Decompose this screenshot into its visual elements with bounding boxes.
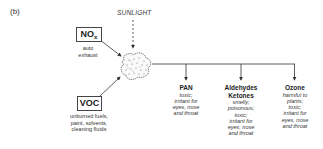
nox-desc-line: exhaust — [68, 52, 108, 59]
voc-arrow — [99, 77, 120, 97]
product-pan: PAN toxic; irritant for eyes, nose and t… — [166, 84, 206, 117]
voc-description: unburned fuels, paint, solvents, cleanin… — [62, 113, 116, 133]
nox-subscript: x — [94, 34, 97, 40]
product-title: Aldehydes — [219, 84, 263, 92]
product-description: harmful to plants; toxic; irritant for e… — [274, 92, 316, 130]
product-title: Ketones — [219, 92, 263, 100]
panel-label: (b) — [10, 7, 20, 16]
nox-name: NO — [81, 29, 95, 39]
product-ozone: Ozone harmful to plants; toxic; irritant… — [274, 84, 316, 129]
product-description: toxic; irritant for eyes, nose and throa… — [166, 92, 206, 117]
product-description: smelly; poisonous; toxic; irritant for e… — [219, 99, 263, 137]
nox-box: NOx — [76, 27, 102, 42]
voc-box: VOC — [77, 96, 102, 111]
product-title: Ozone — [274, 84, 316, 92]
voc-desc-line: cleaning fluids — [62, 126, 116, 133]
product-aldehydes-ketones: Aldehydes Ketones smelly; poisonous; tox… — [219, 84, 263, 137]
desc-line: and throat — [166, 110, 206, 116]
product-title: PAN — [166, 84, 206, 92]
nox-description: auto exhaust — [68, 45, 108, 58]
desc-line: and throat — [219, 130, 263, 136]
sunlight-label: SUNLIGHT — [117, 9, 151, 16]
desc-line: and throat — [274, 123, 316, 129]
smog-cloud-icon — [121, 53, 151, 80]
voc-desc-line: unburned fuels, — [62, 113, 116, 120]
